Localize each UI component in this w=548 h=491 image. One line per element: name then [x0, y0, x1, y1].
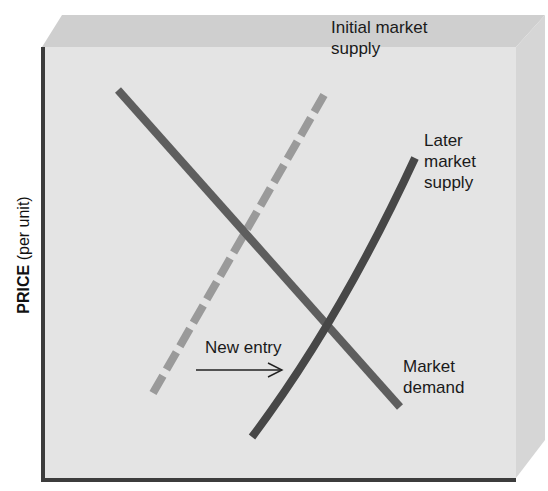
y-axis-label-bold: PRICE: [15, 265, 32, 314]
y-axis-label-rest: (per unit): [15, 196, 32, 260]
demand-label: Market demand: [403, 356, 464, 398]
later-supply-label: Later market supply: [424, 130, 476, 193]
box-side-bevel: [516, 15, 545, 478]
new-entry-label: New entry: [205, 337, 282, 358]
initial-supply-label: Initial market supply: [331, 17, 427, 59]
box-top-bevel: [42, 15, 545, 47]
diagram-canvas: [0, 0, 548, 491]
y-axis-label: PRICE (per unit): [4, 190, 44, 320]
plot-area: [42, 47, 516, 478]
supply-demand-diagram: PRICE (per unit) Initial market supply L…: [0, 0, 548, 491]
